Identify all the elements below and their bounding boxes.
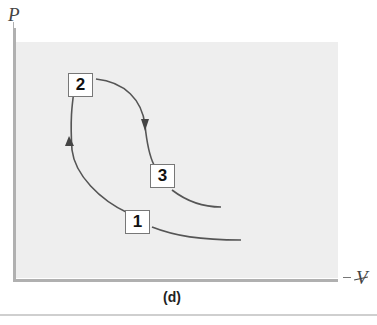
curve-1-to-2: [71, 91, 128, 213]
state-2-label: 2: [76, 75, 85, 95]
bottom-divider: [0, 314, 377, 316]
state-2-box: 2: [68, 73, 93, 97]
curve-3-tail: [172, 190, 221, 207]
arrow-down-icon: [141, 119, 149, 131]
state-3-box: 3: [150, 164, 175, 188]
state-1-label: 1: [133, 212, 142, 232]
state-3-label: 3: [158, 166, 167, 186]
figure-caption: (d): [163, 289, 181, 305]
state-1-box: 1: [125, 210, 150, 234]
arrow-up-icon: [65, 136, 74, 146]
curve-1-tail: [152, 227, 241, 240]
process-curves: [0, 0, 377, 325]
